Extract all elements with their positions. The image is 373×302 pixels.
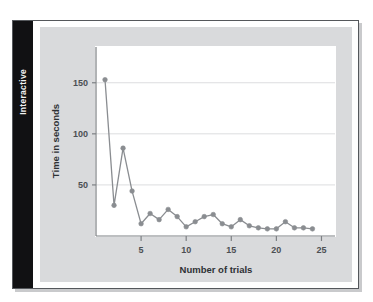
y-axis-ticks: 50100150 [73,78,96,190]
data-line [105,80,312,229]
data-point [193,219,198,224]
data-point [274,227,279,232]
data-point [175,214,180,219]
data-point [301,226,306,231]
x-axis-ticks: 510152025 [139,236,327,255]
data-point [202,214,207,219]
interactive-tab-label: Interactive [18,69,28,115]
x-tick-label-10: 10 [181,245,191,255]
data-point [157,217,162,222]
data-point [184,225,189,230]
data-point [130,189,135,194]
x-tick-label-5: 5 [139,245,144,255]
x-axis-title: Number of trials [180,264,253,275]
data-point [220,221,225,226]
data-point [238,217,243,222]
data-point [310,227,315,232]
data-point [211,212,216,217]
interactive-tab[interactable]: Interactive [13,21,33,288]
y-tick-label-100: 100 [73,129,88,139]
x-tick-label-25: 25 [316,245,326,255]
gridlines-group [96,83,335,185]
data-point [265,227,270,232]
y-tick-label-50: 50 [78,180,88,190]
data-point [256,226,261,231]
y-tick-label-150: 150 [73,78,88,88]
data-point [112,203,117,208]
data-point [166,207,171,212]
data-point [292,226,297,231]
line-chart: 50100150 510152025 Number of trials Time… [40,27,352,282]
data-point [139,221,144,226]
data-point [121,146,126,151]
figure-root: Interactive 50100150 510152025 Number of… [0,0,373,302]
x-tick-label-15: 15 [226,245,236,255]
y-axis-title: Time in seconds [50,104,61,178]
data-point [148,211,153,216]
chart-panel: 50100150 510152025 Number of trials Time… [40,27,352,282]
data-point [247,223,252,228]
data-point [103,77,108,82]
data-point [283,219,288,224]
data-markers-group [103,77,315,231]
x-tick-label-20: 20 [271,245,281,255]
data-point [229,225,234,230]
